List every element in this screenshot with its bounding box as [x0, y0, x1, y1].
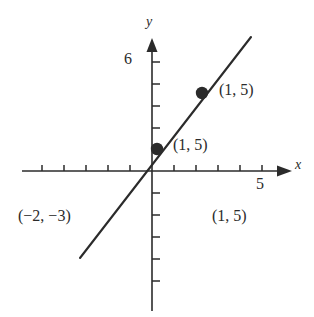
label-bottom-left: (−2, −3): [18, 207, 71, 225]
y-axis-tick-label-6: 6: [124, 50, 132, 68]
data-point-middle: [151, 143, 163, 155]
coordinate-plane: [0, 0, 314, 317]
graph-figure: y x 6 5 (1, 5) (1, 5) (−2, −3) (1, 5): [0, 0, 314, 317]
x-axis-tick-label-5: 5: [256, 175, 264, 193]
x-axis-label: x: [295, 157, 301, 173]
point-label-upper: (1, 5): [219, 81, 254, 99]
x-axis-arrowhead: [277, 166, 292, 177]
y-axis-label: y: [146, 14, 152, 30]
data-point-upper: [196, 87, 208, 99]
y-axis-arrowhead: [147, 38, 158, 52]
label-bottom-right: (1, 5): [212, 207, 247, 225]
point-label-middle: (1, 5): [173, 136, 208, 154]
